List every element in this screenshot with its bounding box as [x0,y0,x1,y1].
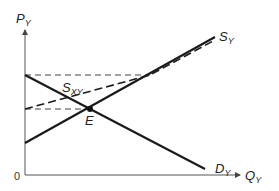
supply-sxy-label: SXY [62,81,83,97]
y-axis-label: PY [16,12,31,28]
economics-diagram: PY QY 0 SY DY SXY E [0,0,279,191]
equilibrium-point [87,106,93,112]
origin-label: 0 [14,170,20,182]
demand-dy-label: DY [215,162,230,178]
diagram-canvas [0,0,279,191]
x-axis-label: QY [245,169,261,185]
supply-sy-label: SY [219,30,234,46]
demand-curve-dy [25,75,205,169]
equilibrium-label: E [85,114,94,127]
